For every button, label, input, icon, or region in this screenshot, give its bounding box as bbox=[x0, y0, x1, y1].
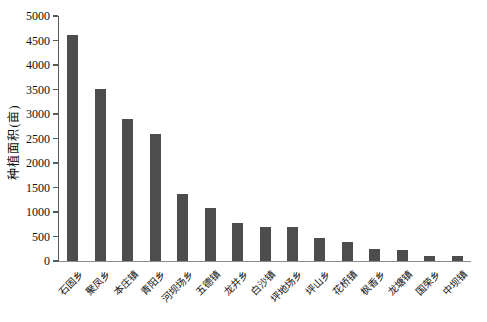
plot-area: 0500100015002000250030003500400045005000… bbox=[58, 16, 471, 262]
y-tick-mark bbox=[53, 64, 58, 66]
bar-国荣乡 bbox=[424, 256, 435, 261]
y-tick-label: 2000 bbox=[26, 156, 50, 171]
y-tick-mark bbox=[53, 15, 58, 17]
x-tick-label: 枫香乡 bbox=[357, 266, 389, 298]
x-tick-label: 五德镇 bbox=[192, 266, 224, 298]
y-tick-label: 3000 bbox=[26, 107, 50, 122]
y-tick-label: 2500 bbox=[26, 131, 50, 146]
y-axis-label: 种植面积(亩) bbox=[4, 67, 22, 217]
bar-河坝场乡 bbox=[177, 194, 188, 261]
bar-chart: 种植面积(亩) 05001000150020002500300035004000… bbox=[0, 0, 487, 322]
x-tick-label: 本庄镇 bbox=[109, 266, 141, 298]
y-tick-mark bbox=[53, 260, 58, 262]
x-tick-label: 国荣乡 bbox=[412, 266, 444, 298]
y-tick-mark bbox=[53, 89, 58, 91]
y-tick-mark bbox=[53, 138, 58, 140]
x-tick-label: 花桥镇 bbox=[329, 266, 361, 298]
bar-石固乡 bbox=[67, 35, 78, 261]
bar-白沙镇 bbox=[260, 227, 271, 261]
bar-本庄镇 bbox=[122, 119, 133, 261]
x-tick-label: 龙井乡 bbox=[219, 266, 251, 298]
x-tick-label: 坪山乡 bbox=[302, 266, 334, 298]
y-tick-label: 0 bbox=[44, 254, 50, 269]
y-tick-mark bbox=[53, 236, 58, 238]
y-tick-mark bbox=[53, 113, 58, 115]
bar-聚凤乡 bbox=[95, 89, 106, 261]
y-tick-label: 3500 bbox=[26, 82, 50, 97]
y-tick-label: 1000 bbox=[26, 205, 50, 220]
y-tick-label: 1500 bbox=[26, 180, 50, 195]
x-tick-label: 龙塘镇 bbox=[384, 266, 416, 298]
y-tick-label: 4500 bbox=[26, 33, 50, 48]
bar-坪山乡 bbox=[314, 238, 325, 261]
y-tick-mark bbox=[53, 40, 58, 42]
x-tick-label: 中坝镇 bbox=[439, 266, 471, 298]
bar-五德镇 bbox=[205, 208, 216, 261]
x-tick-label: 聚凤乡 bbox=[82, 266, 114, 298]
y-tick-mark bbox=[53, 211, 58, 213]
y-tick-label: 4000 bbox=[26, 58, 50, 73]
x-tick-label: 石固乡 bbox=[55, 266, 87, 298]
y-tick-label: 5000 bbox=[26, 9, 50, 24]
y-tick-mark bbox=[53, 187, 58, 189]
bar-花桥镇 bbox=[342, 242, 353, 261]
bar-龙井乡 bbox=[232, 223, 243, 261]
bar-龙塘镇 bbox=[397, 250, 408, 261]
y-tick-mark bbox=[53, 162, 58, 164]
bar-坪地场乡 bbox=[287, 227, 298, 261]
bar-青阳乡 bbox=[150, 134, 161, 261]
bar-中坝镇 bbox=[452, 256, 463, 261]
bar-枫香乡 bbox=[369, 249, 380, 261]
y-tick-label: 500 bbox=[32, 229, 50, 244]
